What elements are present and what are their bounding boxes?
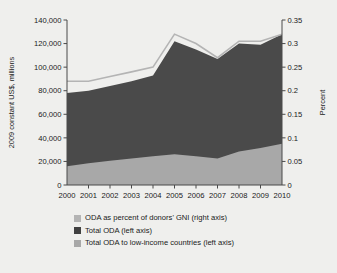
y2-axis-tick-label: 0.3: [288, 39, 299, 48]
y2-axis-tick-label: 0: [288, 181, 292, 190]
oda-area-chart: 020,00040,00060,00080,000100,000120,0001…: [0, 0, 337, 215]
y-axis-tick-label: 0: [57, 181, 61, 190]
legend-item: ODA as percent of donors' GNI (right axi…: [74, 212, 337, 224]
y-axis-tick-label: 120,000: [34, 39, 61, 48]
x-axis-tick-label: 2003: [123, 191, 140, 200]
x-axis-tick-label: 2002: [102, 191, 119, 200]
x-axis-tick-label: 2008: [231, 191, 248, 200]
x-axis-tick-label: 2005: [166, 191, 183, 200]
x-axis-tick-label: 2004: [145, 191, 162, 200]
legend-item: Total ODA (left axis): [74, 225, 337, 237]
y2-axis-title: Percent: [318, 90, 327, 115]
legend-swatch-icon: [74, 240, 81, 247]
legend-item-label: Total ODA to low-income countries (left …: [85, 237, 234, 249]
chart-legend: ODA as percent of donors' GNI (right axi…: [0, 212, 337, 250]
y-axis-tick-label: 20,000: [38, 157, 61, 166]
x-axis-tick-label: 2007: [209, 191, 226, 200]
y-axis-title: 2009 constant US$, millions: [7, 56, 16, 148]
y-axis-tick-label: 40,000: [38, 134, 61, 143]
y2-axis-tick-label: 0.35: [288, 16, 303, 25]
legend-swatch-icon: [74, 215, 81, 222]
y-axis-tick-label: 80,000: [38, 86, 61, 95]
y-axis-tick-label: 100,000: [34, 63, 61, 72]
x-axis-tick-label: 2001: [80, 191, 97, 200]
chart-figure: 020,00040,00060,00080,000100,000120,0001…: [0, 0, 337, 273]
legend-item-label: Total ODA (left axis): [85, 225, 152, 237]
y2-axis-tick-label: 0.15: [288, 110, 303, 119]
legend-swatch-icon: [74, 227, 81, 234]
x-axis-tick-label: 2009: [252, 191, 269, 200]
y-axis-tick-label: 140,000: [34, 16, 61, 25]
y2-axis-tick-label: 0.05: [288, 157, 303, 166]
legend-item-label: ODA as percent of donors' GNI (right axi…: [85, 212, 227, 224]
x-axis-tick-label: 2010: [274, 191, 291, 200]
y2-axis-tick-label: 0.1: [288, 134, 299, 143]
x-axis-tick-label: 2006: [188, 191, 205, 200]
y2-axis-tick-label: 0.2: [288, 86, 299, 95]
x-axis-tick-label: 2000: [59, 191, 76, 200]
legend-item: Total ODA to low-income countries (left …: [74, 237, 337, 249]
y-axis-tick-label: 60,000: [38, 110, 61, 119]
y2-axis-tick-label: 0.25: [288, 63, 303, 72]
